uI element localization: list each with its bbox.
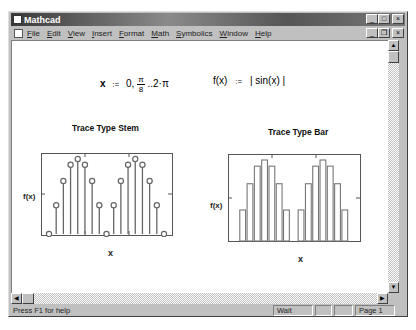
range-variable: x xyxy=(100,78,106,89)
scroll-up-button[interactable]: ▲ xyxy=(388,40,399,51)
function-name: f(x) xyxy=(213,75,227,86)
menu-view[interactable]: View xyxy=(68,29,85,38)
assign-operator: := xyxy=(235,77,242,86)
scroll-right-button[interactable]: ▶ xyxy=(377,293,388,304)
assign-operator: := xyxy=(112,80,119,89)
vertical-scroll-thumb[interactable] xyxy=(388,51,399,63)
stem-plot-title: Trace Type Stem xyxy=(72,123,139,133)
bar-plot[interactable] xyxy=(228,154,362,243)
doc-minimize-button[interactable]: _ xyxy=(366,28,378,38)
range-end: ..2·π xyxy=(147,78,168,89)
status-cell-3 xyxy=(334,305,353,316)
status-bar: Press F1 for help Wait Page 1 xyxy=(11,305,405,316)
status-state: Wait xyxy=(273,305,313,316)
stem-plot-xlabel: x xyxy=(108,248,113,258)
stem-plot-ylabel: f(x) xyxy=(23,192,35,201)
function-body: | sin(x) | xyxy=(250,75,285,86)
mathcad-window: Mathcad _ □ × File Edit View Insert Form… xyxy=(8,11,408,317)
function-definition[interactable]: f(x) := | sin(x) | xyxy=(213,75,285,86)
menu-bar: File Edit View Insert Format Math Symbol… xyxy=(11,27,405,39)
mathcad-app-icon[interactable] xyxy=(13,15,22,24)
menu-insert[interactable]: Insert xyxy=(92,29,112,38)
window-title: Mathcad xyxy=(24,15,61,25)
menu-math[interactable]: Math xyxy=(151,29,169,38)
worksheet-canvas[interactable]: x := 0, π 8 ..2·π f(x) := | sin(x) | Tra… xyxy=(11,40,388,293)
document-icon[interactable] xyxy=(14,29,23,38)
menu-window[interactable]: Window xyxy=(220,29,248,38)
horizontal-scroll-thumb[interactable] xyxy=(22,293,34,304)
menu-symbolics[interactable]: Symbolics xyxy=(176,29,212,38)
stem-plot[interactable] xyxy=(41,153,173,237)
status-cell-2 xyxy=(315,305,332,316)
vertical-scrollbar[interactable]: ▲ ▼ xyxy=(388,40,399,293)
close-button[interactable]: × xyxy=(392,14,404,24)
maximize-button[interactable]: □ xyxy=(378,14,390,24)
range-start: 0, xyxy=(126,78,134,89)
scroll-left-button[interactable]: ◀ xyxy=(11,293,22,304)
horizontal-scrollbar[interactable]: ◀ ▶ xyxy=(11,293,388,304)
doc-restore-button[interactable]: ❐ xyxy=(378,28,390,38)
status-help-text: Press F1 for help xyxy=(13,306,70,315)
menu-file[interactable]: File xyxy=(27,29,40,38)
status-page: Page 1 xyxy=(355,305,395,316)
bar-plot-ylabel: f(x) xyxy=(210,201,222,210)
bar-plot-xlabel: x xyxy=(298,254,303,264)
scroll-down-button[interactable]: ▼ xyxy=(388,282,399,293)
bar-plot-title: Trace Type Bar xyxy=(268,127,328,137)
range-definition[interactable]: x := 0, π 8 ..2·π xyxy=(100,75,169,94)
range-step-fraction: π 8 xyxy=(137,75,145,94)
doc-close-button[interactable]: × xyxy=(392,28,404,38)
title-bar[interactable]: Mathcad _ □ × xyxy=(11,13,405,26)
menu-edit[interactable]: Edit xyxy=(47,29,61,38)
menu-help[interactable]: Help xyxy=(255,29,271,38)
minimize-button[interactable]: _ xyxy=(366,14,378,24)
menu-format[interactable]: Format xyxy=(119,29,144,38)
